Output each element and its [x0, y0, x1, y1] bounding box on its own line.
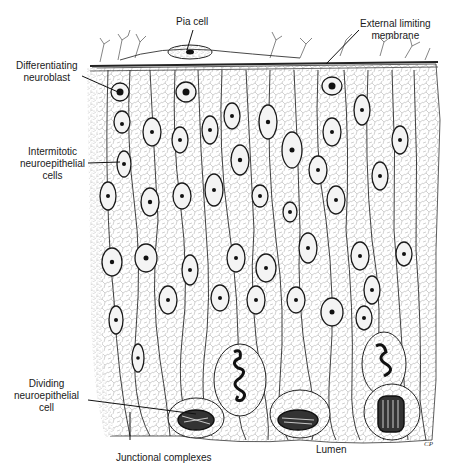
label-line-3: cells	[20, 170, 85, 182]
label-line-1: Intermitotic	[20, 146, 85, 158]
label-line-3: cell	[14, 402, 79, 414]
label-line-1: Differentiating	[16, 60, 78, 72]
label-line-2: membrane	[360, 30, 431, 42]
label-line-1: Dividing	[14, 378, 79, 390]
svg-text:CP: CP	[424, 440, 434, 448]
label-differentiating-neuroblast: Differentiating neuroblast	[16, 60, 78, 84]
label-line-2: neuroblast	[16, 72, 78, 84]
label-lumen: Lumen	[316, 444, 347, 456]
label-intermitotic-neuroepithelial-cells: Intermitotic neuroepithelial cells	[20, 146, 85, 182]
label-junctional-complexes: Junctional complexes	[116, 452, 212, 464]
label-line-2: neuroepithelial	[20, 158, 85, 170]
label-dividing-neuroepithelial-cell: Dividing neuroepithelial cell	[14, 378, 79, 414]
label-pia-cell: Pia cell	[176, 16, 208, 28]
label-external-limiting-membrane: External limiting membrane	[360, 18, 431, 42]
label-line-1: External limiting	[360, 18, 431, 30]
label-line-2: neuroepithelial	[14, 390, 79, 402]
